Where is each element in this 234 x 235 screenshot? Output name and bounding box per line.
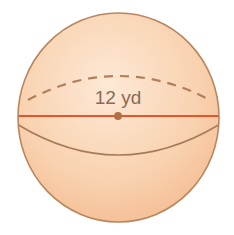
center-point (114, 112, 122, 120)
sphere-svg: 12 yd (0, 0, 234, 235)
diameter-label: 12 yd (95, 87, 141, 108)
sphere-diagram: 12 yd (0, 0, 234, 235)
